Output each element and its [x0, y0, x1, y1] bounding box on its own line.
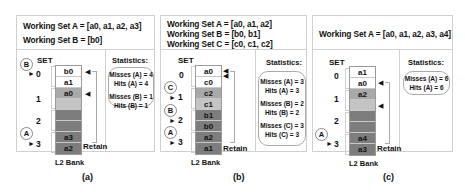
set-number-0: 0 [36, 69, 41, 79]
marker-c: C [164, 81, 177, 94]
working-set-header: Working Set A = [a0, a1, a2] Working Set… [161, 16, 306, 50]
panel-a: Working Set A = [a0, a1, a2, a3] Working… [16, 15, 155, 152]
divider [105, 50, 106, 151]
marker-b: B [164, 104, 177, 117]
statistics-title: Statistics: [259, 58, 309, 67]
pointer-arrow-icon: ► [28, 140, 35, 148]
cache-line [56, 121, 81, 132]
statistics-title: Statistics: [401, 58, 451, 67]
cache-line: c2 [196, 88, 221, 99]
stat-misses-a: Misses (A) = 3 [259, 78, 305, 87]
bank-label: L2 Bank [191, 158, 220, 167]
set-label: SET [178, 56, 194, 65]
l2-bank: a0 c0 c2 c1 b1 b0 a2 a1 [195, 65, 222, 155]
marker-a: A [164, 126, 177, 139]
stat-misses-a: Misses (A) = 6 [404, 75, 449, 84]
caption-c: (c) [383, 172, 394, 182]
working-set-b: Working Set B = [b0, b1] [167, 29, 260, 39]
stat-hits-c: Hits (C) = 3 [259, 131, 305, 140]
working-set-a: Working Set A = [a0, a1, a2, a3] [23, 21, 141, 31]
statistics-title: Statistics: [105, 56, 155, 65]
cache-line [350, 122, 375, 133]
cache-line: a4 [350, 133, 375, 144]
set-number-0: 0 [179, 70, 184, 80]
caption-b: (b) [233, 172, 245, 182]
pointer-arrow-icon: ► [169, 94, 176, 102]
divider [255, 50, 256, 151]
cache-line: b0 [196, 121, 221, 132]
cache-line [56, 110, 81, 121]
statistics-box: Misses (A) = 4 Hits (A) = 4 Misses (B) =… [108, 67, 154, 107]
bank-label: L2 Bank [55, 158, 84, 167]
stat-hits-b: Hits (B) = 1 [109, 102, 153, 111]
cache-line: a2 [196, 132, 221, 143]
working-set-b: Working Set B = [b0] [23, 35, 102, 45]
lru-pointer-icon: ◀ [223, 72, 228, 80]
caption-a: (a) [82, 172, 93, 182]
l2-bank: b0 a1 a0 a3 a2 [55, 65, 82, 155]
working-set-a: Working Set A = [a0, a1, a2] [167, 19, 272, 29]
stat-hits-b: Hits (B) = 2 [259, 109, 305, 118]
retain-label: Retain [223, 144, 247, 153]
stat-misses-b: Misses (B) = 2 [259, 100, 305, 109]
retain-label: Retain [83, 142, 107, 151]
set-number-2: 2 [36, 116, 41, 126]
stat-misses-b: Misses (B) = 1 [109, 93, 153, 102]
stat-hits-a: Hits (A) = 6 [404, 84, 449, 93]
cache-line: a0 [196, 66, 221, 77]
cache-line: a1 [56, 77, 81, 88]
stat-misses-c: Misses (C) = 3 [259, 122, 305, 131]
pointer-arrow-icon: ► [326, 140, 333, 148]
retain-bracket [385, 82, 390, 144]
divider [399, 50, 400, 151]
lru-pointer-icon: ◀ [378, 102, 383, 110]
statistics-box: Misses (A) = 6 Hits (A) = 6 [403, 71, 450, 95]
cache-line [350, 111, 375, 122]
stat-misses-a: Misses (A) = 4 [109, 71, 153, 80]
cache-line: b1 [196, 110, 221, 121]
stat-hits-a: Hits (A) = 4 [109, 80, 153, 89]
lru-pointer-icon: ◀ [378, 79, 383, 87]
retain-label: Retain [377, 144, 401, 153]
cache-line: c1 [196, 99, 221, 110]
set-number-2: 2 [334, 116, 339, 126]
set-number-1: 1 [36, 94, 41, 104]
set-label: SET [37, 56, 53, 65]
working-set-a: Working Set A = [a0, a1, a2, a3, a4] [319, 29, 451, 39]
retain-bracket [92, 71, 97, 143]
set-number-2: 2 [178, 115, 183, 125]
cache-line: a2 [350, 89, 375, 100]
panel-b: Working Set A = [a0, a1, a2] Working Set… [160, 15, 307, 152]
marker-a: A [20, 127, 33, 140]
cache-line [350, 100, 375, 111]
set-label: SET [329, 58, 345, 67]
l2-bank: a1 a0 a2 a4 a3 [349, 66, 376, 156]
lru-pointer-icon: ◀ [85, 90, 90, 98]
working-set-c: Working Set C = [c0, c1, c2] [167, 39, 273, 49]
set-number-1: 1 [178, 92, 183, 102]
cache-line: a3 [56, 132, 81, 143]
pointer-arrow-icon: ► [28, 70, 35, 78]
stat-hits-a: Hits (A) = 3 [259, 87, 305, 96]
pointer-arrow-icon: ► [169, 117, 176, 125]
set-number-1: 1 [334, 94, 339, 104]
statistics-box: Misses (A) = 3 Hits (A) = 3 Misses (B) =… [258, 71, 306, 146]
set-number-3: 3 [36, 139, 41, 149]
cache-line: a2 [56, 143, 81, 154]
cache-line: c0 [196, 77, 221, 88]
cache-line: a0 [56, 88, 81, 99]
cache-line: b0 [56, 66, 81, 77]
cache-line [56, 99, 81, 110]
set-number-0: 0 [334, 71, 339, 81]
cache-line: a1 [350, 67, 375, 78]
pointer-arrow-icon: ► [169, 139, 176, 147]
bank-label: L2 Bank [349, 159, 378, 168]
cache-line: a1 [196, 143, 221, 154]
lru-pointer-icon: ◀ [85, 68, 90, 76]
cache-line: a3 [350, 144, 375, 155]
cache-line: a0 [350, 78, 375, 89]
set-number-3: 3 [178, 137, 183, 147]
panel-c: Working Set A = [a0, a1, a2, a3, a4] SET… [312, 15, 453, 152]
working-set-header: Working Set A = [a0, a1, a2, a3] Working… [17, 16, 154, 50]
working-set-header: Working Set A = [a0, a1, a2, a3, a4] [313, 16, 452, 50]
